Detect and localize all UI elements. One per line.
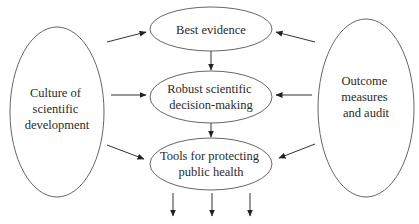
node-evidence: Best evidence xyxy=(150,7,272,51)
node-tools-line-2: public health xyxy=(179,165,245,179)
arrow-outcome-to-evidence xyxy=(276,32,315,42)
node-decision-line-2: decision-making xyxy=(169,98,253,112)
node-culture-line-2: scientific xyxy=(33,102,79,116)
svg-text:Culture of scientific: Culture of scientific development xyxy=(25,86,90,132)
node-outcome-line-2: measures xyxy=(341,90,388,104)
node-culture-line-1: Culture of xyxy=(30,86,82,100)
svg-text:Best evidence: Best evidence xyxy=(176,23,246,37)
node-culture-line-3: development xyxy=(25,118,90,132)
node-tools-line-1: Tools for protecting xyxy=(160,149,260,163)
diagram-canvas: Culture of scientific development Outcom… xyxy=(0,0,419,224)
node-tools: Tools for protecting public health xyxy=(150,138,272,190)
arrow-culture-to-tools xyxy=(107,145,144,159)
node-outcome-line-1: Outcome xyxy=(342,74,388,88)
node-decision: Robust scientific decision-making xyxy=(150,71,272,123)
arrow-outcome-to-tools xyxy=(279,144,315,158)
svg-text:Outcome measures a: Outcome measures and audit xyxy=(341,74,391,120)
node-decision-line-1: Robust scientific xyxy=(167,82,252,96)
node-outcome: Outcome measures and audit xyxy=(318,19,414,197)
arrow-culture-to-evidence xyxy=(107,32,146,42)
node-culture: Culture of scientific development xyxy=(10,27,104,197)
node-evidence-line-1: Best evidence xyxy=(176,23,246,37)
node-outcome-line-3: and audit xyxy=(343,106,390,120)
